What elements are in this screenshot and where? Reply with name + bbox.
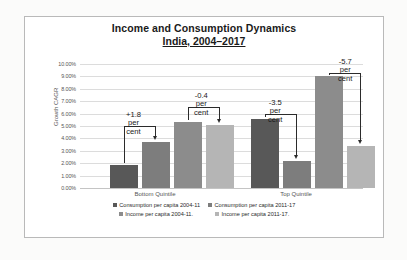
legend-label-1: Consumption per capita 2004-11 (119, 202, 200, 208)
bar-top-quintile-s1 (251, 119, 279, 188)
y-tick-label-1: 1.00% (61, 173, 76, 179)
y-tick-label-6: 6.00% (61, 111, 76, 117)
legend-label-4: Income per capita 2011-17. (222, 211, 290, 217)
bar-top-quintile-s2 (283, 161, 311, 188)
y-tick-label-7: 7.00% (61, 98, 76, 104)
annotation-arrow-icon-income-bottom (217, 119, 221, 123)
y-tick-label-10: 10.00% (58, 61, 76, 67)
annotation-arrow-icon-consumption-top (294, 155, 298, 159)
annotation-arrow-icon-income-top (358, 140, 362, 144)
annotation-label-income-top: -5.7percent (338, 58, 352, 83)
legend-row-1: Consumption per capita 2004-11 Consumpti… (25, 202, 383, 208)
bar-bottom-quintile-s2 (142, 142, 170, 188)
gridline-0-axis: 0.00% (80, 188, 363, 189)
annotation-unit2-income-top: cent (338, 75, 352, 83)
bar-bottom-quintile-s3 (174, 122, 202, 188)
legend-label-2: Consumption per capita 2011-17 (215, 202, 296, 208)
page-title: Income and Consumption Dynamics (25, 22, 383, 35)
x-axis-label-bottom-quintile: Bottom Quintile (134, 191, 175, 197)
bar-bottom-quintile-s4 (206, 125, 234, 188)
annotation-arrow-icon-consumption-bottom (153, 136, 157, 140)
bar-top-quintile-s3 (315, 76, 343, 188)
plot-area: 10.00% 9.00% 8.00% 7.00% 6.00% 5.00% 4.0… (80, 64, 363, 188)
legend-swatch-icon-3 (119, 212, 123, 216)
y-tick-label-3: 3.00% (61, 148, 76, 154)
legend-row-2: Income per capita 2004-11. Income per ca… (25, 211, 383, 217)
legend-item-consumption-2004-11[interactable]: Consumption per capita 2004-11 (113, 202, 200, 208)
chart-title-block: Income and Consumption Dynamics India, 2… (25, 22, 383, 48)
annotation-unit2-income-bottom: cent (194, 109, 208, 117)
chart-container: Income and Consumption Dynamics India, 2… (24, 16, 384, 238)
legend-swatch-icon-2 (208, 203, 212, 207)
annotation-label-income-bottom: -0.4percent (194, 92, 208, 117)
annotation-label-consumption-bottom: +1.8percent (126, 111, 141, 136)
bar-bottom-quintile-s1 (110, 165, 138, 188)
y-tick-label-2: 2.00% (61, 160, 76, 166)
legend-swatch-icon-4 (215, 212, 219, 216)
y-tick-label-0: 0.00% (61, 185, 76, 191)
legend-item-consumption-2011-17[interactable]: Consumption per capita 2011-17 (208, 202, 295, 208)
legend-item-income-2011-17[interactable]: Income per capita 2011-17. (215, 211, 289, 217)
legend-label-3: Income per capita 2004-11. (125, 211, 193, 217)
legend-item-income-2004-11[interactable]: Income per capita 2004-11. (119, 211, 193, 217)
y-tick-label-5: 5.00% (61, 123, 76, 129)
x-axis-label-top-quintile: Top Quintile (280, 191, 312, 197)
chart-subtitle: India, 2004–2017 (25, 35, 383, 48)
annotation-unit2-consumption-bottom: cent (126, 128, 141, 136)
annotation-unit2-consumption-top: cent (268, 116, 282, 124)
gridline-10: 10.00% (80, 64, 363, 65)
y-axis-title: Growth CAGR (53, 88, 59, 126)
bar-top-quintile-s4 (347, 146, 375, 188)
annotation-label-consumption-top: -3.5percent (268, 99, 282, 124)
chart-legend: Consumption per capita 2004-11 Consumpti… (25, 199, 383, 217)
y-tick-label-4: 4.00% (61, 135, 76, 141)
legend-swatch-icon-1 (113, 203, 117, 207)
y-tick-label-8: 8.00% (61, 86, 76, 92)
y-tick-label-9: 9.00% (61, 73, 76, 79)
